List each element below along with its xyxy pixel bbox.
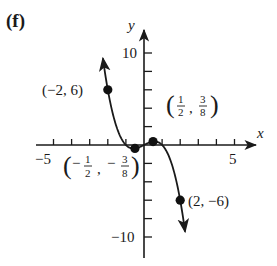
y-tick-label-10: 10	[122, 45, 137, 61]
svg-text:3: 3	[122, 153, 128, 165]
data-point	[148, 137, 157, 146]
point-label-neg-half-neg-3eighths: ( − 1 2 , − 3 8 )	[63, 151, 140, 180]
svg-text:(: (	[166, 90, 175, 119]
x-tick-label-5: 5	[229, 151, 237, 167]
svg-text:,: ,	[189, 100, 193, 116]
svg-text:8: 8	[200, 106, 206, 118]
data-point	[103, 85, 112, 94]
svg-text:−: −	[72, 155, 80, 171]
x-tick-label-neg5: −5	[35, 151, 51, 167]
chart: (f) x y −5 5 10 −10 (−2, 6) (2, −6) ( 1 …	[0, 0, 277, 266]
panel-label: (f)	[6, 10, 25, 32]
svg-text:(: (	[63, 151, 72, 180]
point-label-half-3eighths: ( 1 2 , 3 8 )	[166, 90, 219, 119]
svg-text:8: 8	[122, 167, 128, 179]
svg-text:): )	[210, 90, 219, 119]
point-label-2-neg6: (2, −6)	[188, 193, 229, 210]
svg-text:1: 1	[178, 93, 184, 105]
svg-text:1: 1	[85, 153, 91, 165]
svg-text:,: ,	[97, 161, 101, 177]
data-point	[176, 196, 185, 205]
point-label-neg2-6: (−2, 6)	[42, 82, 83, 99]
svg-text:2: 2	[85, 167, 91, 179]
x-axis-label: x	[256, 125, 264, 141]
svg-text:2: 2	[178, 106, 184, 118]
y-axis-label: y	[126, 17, 135, 33]
y-tick-label-neg10: −10	[111, 229, 134, 245]
svg-text:−: −	[107, 155, 115, 171]
svg-text:): )	[131, 151, 140, 180]
svg-text:3: 3	[200, 93, 206, 105]
